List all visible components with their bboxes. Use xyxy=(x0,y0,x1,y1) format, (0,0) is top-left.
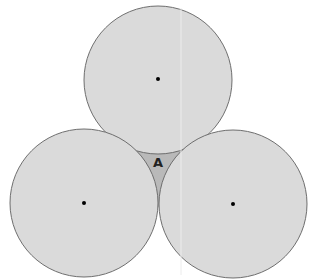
three-circles-diagram: A xyxy=(0,0,314,280)
region-label: A xyxy=(153,155,163,170)
center-dot-right xyxy=(231,202,235,206)
center-dot-left xyxy=(82,201,86,205)
center-dot-top xyxy=(156,77,160,81)
